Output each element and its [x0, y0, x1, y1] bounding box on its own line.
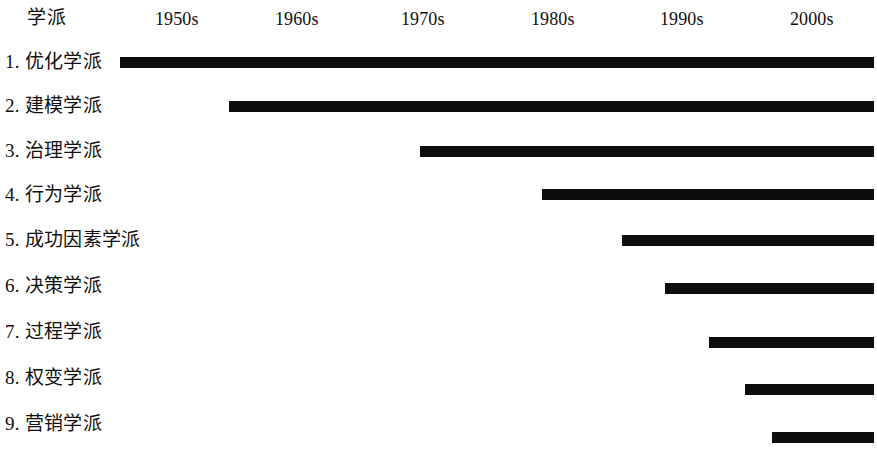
table-row: 2. 建模学派 [0, 86, 877, 130]
gantt-rows-area: 1. 优化学派 2. 建模学派 3. 治理学派 4. 行为学派 5. 成功因素学… [0, 40, 877, 457]
row-bar-5 [622, 235, 874, 246]
decade-tick-2000s: 2000s [790, 8, 834, 30]
table-row: 4. 行为学派 [0, 175, 877, 219]
category-column-header: 学派 [27, 7, 66, 29]
row-bar-2 [229, 101, 874, 112]
table-row: 9. 营销学派 [0, 404, 877, 448]
decade-tick-1950s: 1950s [155, 8, 199, 30]
row-label-2: 2. 建模学派 [5, 94, 102, 118]
decade-tick-1960s: 1960s [275, 8, 319, 30]
row-bar-1 [120, 57, 874, 68]
row-bar-9 [772, 432, 874, 443]
row-label-8: 8. 权变学派 [5, 366, 102, 390]
table-row: 5. 成功因素学派 [0, 220, 877, 264]
row-label-4: 4. 行为学派 [5, 183, 102, 207]
row-label-6: 6. 决策学派 [5, 274, 102, 298]
row-bar-8 [745, 384, 874, 395]
row-bar-3 [420, 146, 874, 157]
row-label-5: 5. 成功因素学派 [5, 228, 141, 252]
decade-tick-1990s: 1990s [660, 8, 704, 30]
table-row: 8. 权变学派 [0, 358, 877, 402]
decade-tick-1980s: 1980s [531, 8, 575, 30]
row-label-7: 7. 过程学派 [5, 320, 102, 344]
row-bar-6 [665, 283, 874, 294]
table-row: 7. 过程学派 [0, 312, 877, 356]
decade-tick-1970s: 1970s [401, 8, 445, 30]
table-row: 3. 治理学派 [0, 131, 877, 175]
row-label-1: 1. 优化学派 [5, 50, 102, 74]
row-label-9: 9. 营销学派 [5, 412, 102, 436]
decade-axis-header: 学派 1950s 1960s 1970s 1980s 1990s 2000s [0, 0, 877, 40]
row-label-3: 3. 治理学派 [5, 139, 102, 163]
row-bar-7 [709, 337, 874, 348]
gantt-timeline-chart: 学派 1950s 1960s 1970s 1980s 1990s 2000s 1… [0, 0, 877, 457]
table-row: 1. 优化学派 [0, 42, 877, 86]
row-bar-4 [542, 189, 874, 200]
table-row: 6. 决策学派 [0, 266, 877, 310]
